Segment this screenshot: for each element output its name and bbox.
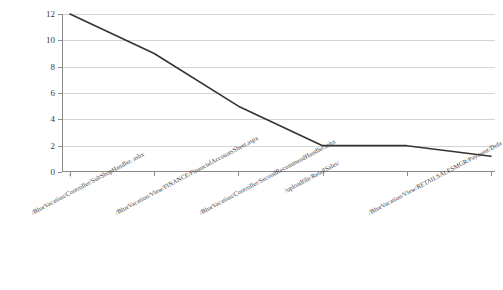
plot-area: 024681012 (62, 14, 495, 172)
x-tick-mark (407, 172, 408, 176)
y-tick-label: 8 (51, 62, 56, 71)
first-tick-glyph: \ (69, 172, 71, 180)
x-axis (62, 171, 495, 172)
x-tick-mark (154, 172, 155, 176)
y-tick-label: 4 (51, 115, 56, 124)
y-axis (62, 14, 63, 172)
y-tick-mark (58, 172, 62, 173)
y-tick-label: 0 (51, 168, 56, 177)
x-tick-mark (238, 172, 239, 176)
x-tick-mark (491, 172, 492, 176)
y-tick-label: 2 (51, 141, 56, 150)
y-tick-label: 12 (46, 10, 55, 19)
y-tick-label: 10 (46, 36, 55, 45)
x-tick-mark (323, 172, 324, 176)
y-tick-label: 6 (51, 89, 56, 98)
series-line (62, 14, 495, 172)
